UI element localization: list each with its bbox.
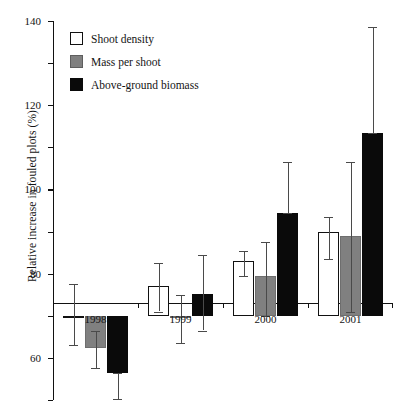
error-bar-cap	[368, 133, 377, 134]
error-bar-cap	[154, 312, 163, 313]
x-axis-group-label: 1998	[85, 313, 107, 325]
error-bar-line	[244, 251, 245, 276]
legend-swatch-black	[70, 78, 83, 91]
y-tick: 140	[48, 21, 53, 22]
y-tick-label: 80	[30, 268, 41, 280]
y-tick: 80	[48, 147, 53, 148]
y-tick: -20	[48, 358, 53, 359]
x-axis-group-label: 2000	[255, 313, 277, 325]
legend-item-1: Shoot density	[70, 27, 199, 50]
error-bar-cap	[283, 162, 292, 163]
y-tick: 120	[48, 63, 53, 64]
error-bar-cap	[198, 331, 207, 332]
error-bar-cap	[346, 162, 355, 163]
error-bar-line	[373, 27, 374, 132]
error-bar-line	[118, 373, 119, 399]
x-tick	[392, 303, 393, 308]
error-bar-cap	[368, 27, 377, 28]
error-bar-cap	[198, 255, 207, 256]
y-tick-label: 100	[25, 183, 42, 195]
bar-1998-series3	[107, 316, 128, 373]
y-tick-label: 140	[25, 15, 42, 27]
error-bar-cap	[239, 276, 248, 277]
legend-swatch-gray	[70, 55, 83, 68]
y-axis-line	[53, 21, 54, 400]
error-bar-cap	[69, 284, 78, 285]
error-bar-cap	[324, 259, 333, 260]
x-tick	[223, 303, 224, 308]
scan-artifact	[64, 0, 214, 6]
y-tick: -40	[48, 400, 53, 401]
error-bar-cap	[113, 373, 122, 374]
y-tick: 60	[48, 189, 53, 190]
bar-2001-series3	[362, 133, 383, 316]
legend-label: Above-ground biomass	[91, 79, 199, 91]
error-bar-cap	[324, 217, 333, 218]
error-bar-cap	[283, 213, 292, 214]
y-tick-label: 60	[30, 352, 41, 364]
x-tick	[53, 303, 54, 308]
error-bar-line	[288, 162, 289, 213]
x-axis-group-label: 2001	[340, 313, 362, 325]
error-bar-cap	[113, 399, 122, 400]
error-bar-cap	[176, 295, 185, 296]
error-bar-line	[96, 331, 97, 369]
error-bar-cap	[176, 343, 185, 344]
error-bar-cap	[91, 331, 100, 332]
error-bar-line	[266, 242, 267, 316]
bar-chart: Relative increase in fouled plots (%) 14…	[0, 0, 402, 418]
error-bar-line	[351, 162, 352, 312]
legend-swatch-white	[70, 32, 83, 45]
y-tick: 20	[48, 274, 53, 275]
x-axis-group-label: 1999	[170, 313, 192, 325]
y-tick-label: 120	[25, 99, 42, 111]
legend-label: Shoot density	[91, 33, 154, 45]
error-bar-line	[203, 255, 204, 331]
error-bar-line	[74, 284, 75, 345]
error-bar-cap	[154, 263, 163, 264]
x-tick	[138, 303, 139, 308]
y-tick: 0	[48, 316, 53, 317]
y-tick: 40	[48, 232, 53, 233]
chart-legend: Shoot densityMass per shootAbove-ground …	[70, 27, 199, 96]
error-bar-cap	[261, 242, 270, 243]
error-bar-line	[329, 217, 330, 259]
legend-item-2: Mass per shoot	[70, 50, 199, 73]
x-tick	[308, 303, 309, 308]
legend-label: Mass per shoot	[91, 56, 161, 68]
bar-2000-series3	[277, 213, 298, 316]
error-bar-cap	[69, 345, 78, 346]
error-bar-cap	[91, 368, 100, 369]
legend-item-3: Above-ground biomass	[70, 73, 199, 96]
y-tick: 100	[48, 105, 53, 106]
error-bar-cap	[239, 251, 248, 252]
error-bar-line	[159, 263, 160, 311]
